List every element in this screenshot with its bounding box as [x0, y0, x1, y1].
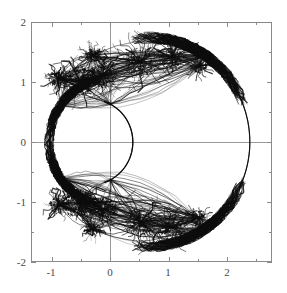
x-tick-label-2: 2: [224, 267, 230, 278]
locus-speck: [50, 74, 51, 75]
x-tick-label-1: 1: [165, 267, 171, 278]
locus-speck: [65, 90, 66, 91]
y-tick-label-1: 1: [21, 77, 27, 88]
locus-speck: [142, 233, 143, 234]
locus-speck: [163, 50, 164, 51]
locus-speck: [151, 232, 152, 233]
locus-speck: [75, 206, 76, 207]
locus-speck: [146, 234, 147, 235]
locus-speck: [51, 206, 52, 207]
locus-speck: [144, 48, 145, 49]
plot-canvas: [0, 0, 287, 293]
locus-speck: [52, 200, 53, 201]
locus-speck: [163, 65, 164, 66]
locus-speck: [133, 49, 134, 50]
locus-speck: [116, 200, 117, 201]
locus-speck: [97, 48, 98, 49]
locus-speck: [51, 74, 52, 75]
locus-speck: [187, 226, 188, 227]
locus-speck: [208, 67, 209, 68]
locus-speck: [198, 211, 199, 212]
locus-speck: [164, 229, 165, 230]
locus-speck: [60, 196, 61, 197]
locus-speck: [62, 212, 63, 213]
locus-speck: [50, 202, 52, 204]
locus-speck: [69, 215, 70, 216]
locus-speck: [70, 214, 72, 216]
locus-speck: [67, 213, 68, 214]
locus-speck: [157, 62, 158, 63]
locus-speck: [70, 215, 71, 216]
y-tick-label--2: -2: [17, 257, 26, 268]
figure-root: -1012210-1-2: [0, 0, 287, 293]
locus-speck: [142, 48, 143, 49]
plot-background: [0, 0, 287, 293]
locus-speck: [133, 237, 134, 238]
locus-speck: [180, 66, 181, 67]
locus-speck: [70, 68, 71, 69]
locus-speck: [123, 56, 124, 57]
locus-speck: [56, 71, 57, 72]
y-tick-label--1: -1: [17, 197, 26, 208]
locus-speck: [49, 80, 50, 81]
locus-speck: [53, 87, 54, 88]
locus-speck: [207, 215, 208, 216]
locus-speck: [137, 231, 138, 232]
locus-speck: [193, 72, 194, 73]
locus-speck: [131, 231, 132, 232]
locus-speck: [85, 231, 86, 232]
locus-speck: [136, 76, 137, 77]
locus-speck: [86, 72, 87, 73]
locus-speck: [49, 203, 50, 204]
locus-speck: [207, 66, 208, 67]
locus-speck: [48, 205, 49, 206]
locus-speck: [143, 237, 144, 238]
locus-speck: [64, 209, 65, 210]
locus-speck: [205, 218, 206, 219]
locus-speck: [50, 205, 51, 206]
locus-speck: [136, 48, 137, 49]
locus-speck: [204, 215, 205, 216]
locus-speck: [163, 235, 164, 236]
locus-speck: [50, 204, 52, 206]
locus-speck: [141, 47, 142, 48]
locus-speck: [52, 202, 54, 204]
locus-speck: [204, 72, 205, 73]
locus-speck: [106, 63, 107, 64]
locus-speck: [202, 211, 203, 212]
locus-speck: [72, 213, 73, 214]
locus-speck: [68, 213, 69, 214]
locus-speck: [96, 233, 97, 234]
locus-speck: [203, 211, 204, 212]
x-tick-label-0: 0: [107, 267, 113, 278]
locus-speck: [137, 232, 138, 233]
locus-speck: [132, 50, 133, 51]
locus-speck: [126, 56, 127, 57]
locus-speck: [74, 215, 75, 216]
y-tick-label-0: 0: [21, 137, 27, 148]
x-tick-label--1: -1: [46, 267, 55, 278]
y-tick-label-2: 2: [21, 17, 27, 28]
locus-speck: [53, 201, 54, 202]
